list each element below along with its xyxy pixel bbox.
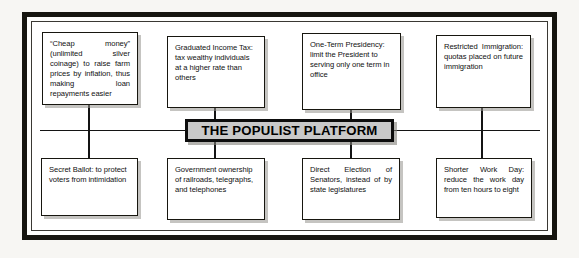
node-cheap-money[interactable]: “Cheap money” (unlimited silver coinage)… (42, 32, 138, 105)
node-government-ownership[interactable]: Government ownership of railroads, teleg… (167, 158, 265, 220)
central-banner[interactable]: THE POPULIST PLATFORM (185, 119, 394, 142)
node-shorter-work-day[interactable]: Shorter Work Day: reduce the work day fr… (436, 158, 532, 218)
node-graduated-income-tax[interactable]: Graduated Income Tax: tax wealthy indivi… (167, 36, 265, 108)
node-restricted-immigration[interactable]: Restricted Immigration: quotas placed on… (436, 35, 531, 108)
node-one-term-presidency[interactable]: One-Term Presidency: limit the President… (302, 33, 401, 110)
node-secret-ballot[interactable]: Secret Ballot: to protect voters from in… (41, 158, 138, 216)
populist-platform-diagram: “Cheap money” (unlimited silver coinage)… (0, 0, 579, 258)
node-direct-election-of-senators[interactable]: Direct Election of Senators, instead of … (302, 158, 400, 220)
central-banner-label: THE POPULIST PLATFORM (201, 123, 377, 138)
